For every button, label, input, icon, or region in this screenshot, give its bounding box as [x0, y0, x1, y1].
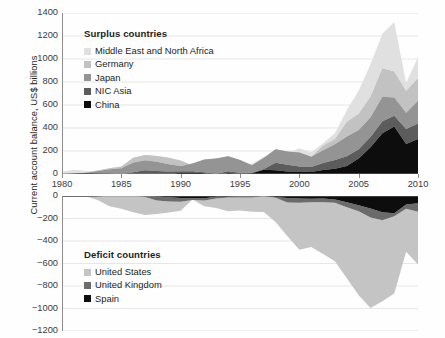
- y-axis-tick-label: 1000: [24, 54, 58, 63]
- y-axis-tick-label: 1400: [24, 8, 58, 17]
- y-axis-tick-label: −600: [24, 259, 58, 268]
- x-axis-tick-mark: [299, 174, 300, 178]
- y-axis-tick-label: 600: [24, 100, 58, 109]
- deficit-legend-item: Spain: [84, 294, 162, 304]
- x-axis-tick-mark: [359, 174, 360, 178]
- legend-swatch-icon: [84, 295, 91, 302]
- y-axis-tick-label: 0: [24, 169, 58, 178]
- y-axis-tick-label: 1200: [24, 31, 58, 40]
- x-axis-tick-mark: [240, 174, 241, 178]
- x-axis-tick-mark: [418, 174, 419, 178]
- legend-item-label: China: [95, 100, 120, 110]
- surplus-legend-item: Middle East and North Africa: [84, 46, 214, 56]
- legend-item-label: United Kingdom: [95, 280, 162, 290]
- legend-swatch-icon: [84, 88, 91, 95]
- surplus-axis-line: [62, 13, 63, 174]
- legend-item-label: Middle East and North Africa: [95, 46, 214, 56]
- deficit-legend: Deficit countries United StatesUnited Ki…: [84, 249, 162, 307]
- x-axis-tick-label: 1990: [170, 179, 191, 189]
- surplus-legend-item: China: [84, 100, 214, 110]
- y-axis-tick-label: 800: [24, 77, 58, 86]
- deficit-legend-item: United Kingdom: [84, 280, 162, 290]
- deficit-legend-title: Deficit countries: [84, 249, 162, 260]
- x-axis-tick-label: 1980: [52, 179, 73, 189]
- legend-item-label: NIC Asia: [95, 86, 131, 96]
- x-axis-tick-label: 1985: [111, 179, 132, 189]
- legend-item-label: Spain: [95, 294, 119, 304]
- deficit-legend-item: United States: [84, 267, 162, 277]
- y-axis-tick-label: 200: [24, 146, 58, 155]
- y-axis-tick-label: −1000: [24, 304, 58, 313]
- legend-swatch-icon: [84, 282, 91, 289]
- y-axis-tick-labels: 02004006008001000120014000−200−400−600−8…: [22, 0, 58, 338]
- surplus-legend-item: NIC Asia: [84, 86, 214, 96]
- x-axis-tick-label: 2000: [289, 179, 310, 189]
- current-account-balance-chart: Current account balance, US$ billions 02…: [0, 0, 445, 338]
- surplus-legend-title: Surplus countries: [84, 28, 214, 39]
- y-axis-tick-label: −800: [24, 281, 58, 290]
- x-axis-tick-mark: [121, 174, 122, 178]
- y-axis-tick-label: −1200: [24, 326, 58, 335]
- legend-item-label: Japan: [95, 73, 121, 83]
- x-axis-tick-label: 2005: [348, 179, 369, 189]
- surplus-legend-item: Japan: [84, 73, 214, 83]
- y-axis-tick-label: −200: [24, 214, 58, 223]
- y-axis-tick-label: 400: [24, 123, 58, 132]
- deficit-axis-line: [62, 196, 63, 331]
- x-axis-tick-mark: [181, 174, 182, 178]
- legend-swatch-icon: [84, 48, 91, 55]
- legend-item-label: Germany: [95, 59, 134, 69]
- x-axis-tick-mark: [62, 174, 63, 178]
- surplus-legend-item: Germany: [84, 59, 214, 69]
- surplus-legend: Surplus countries Middle East and North …: [84, 28, 214, 113]
- y-axis-tick-label: 0: [24, 191, 58, 200]
- legend-swatch-icon: [84, 74, 91, 81]
- legend-swatch-icon: [84, 61, 91, 68]
- legend-swatch-icon: [84, 101, 91, 108]
- legend-swatch-icon: [84, 269, 91, 276]
- x-axis-tick-label: 2010: [408, 179, 429, 189]
- legend-item-label: United States: [95, 267, 151, 277]
- x-axis-tick-label: 1995: [230, 179, 251, 189]
- y-axis-tick-label: −400: [24, 236, 58, 245]
